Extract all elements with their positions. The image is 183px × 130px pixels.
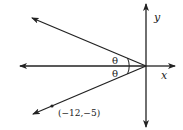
lower-ray — [33, 66, 146, 114]
point-label: (−12,−5) — [58, 108, 100, 118]
upper-ray — [32, 18, 146, 66]
theta-label-lower: θ — [112, 68, 118, 79]
y-axis-label: y — [153, 11, 161, 24]
theta-label-upper: θ — [112, 55, 118, 66]
diagram-canvas: θ θ y x (−12,−5) — [0, 0, 183, 130]
point-marker — [50, 104, 53, 107]
x-axis-label: x — [161, 69, 168, 82]
